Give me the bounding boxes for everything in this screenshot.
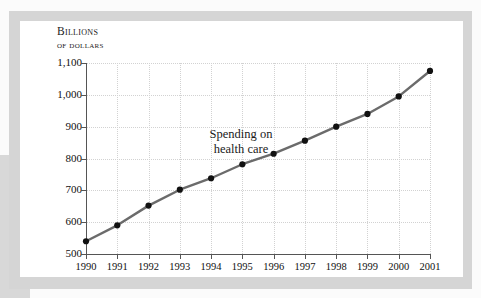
y-axis-tick-labels: 1,1001,000900800700600500 xyxy=(40,0,82,298)
chart-annotation: Spending on health care xyxy=(186,127,296,156)
data-point-marker xyxy=(302,138,308,144)
y-axis-tick-label: 900 xyxy=(66,120,83,132)
data-point-marker xyxy=(364,111,370,117)
chart-page: Billions of dollars 1,1001,0009008007006… xyxy=(0,0,481,298)
series-markers xyxy=(83,68,433,245)
data-point-marker xyxy=(333,124,339,130)
y-axis-tick-label: 800 xyxy=(66,152,83,164)
data-point-marker xyxy=(177,187,183,193)
data-point-marker xyxy=(208,175,214,181)
data-point-marker xyxy=(396,93,402,99)
annotation-line-1: Spending on xyxy=(186,127,296,142)
data-point-marker xyxy=(239,161,245,167)
series-plot xyxy=(86,63,446,263)
y-axis-tick-label: 500 xyxy=(66,247,83,259)
y-axis-tick-label: 700 xyxy=(66,183,83,195)
series-line-health-care xyxy=(86,71,430,241)
y-axis-tick-label: 1,100 xyxy=(57,56,82,68)
data-point-marker xyxy=(145,203,151,209)
y-axis-tick-label: 600 xyxy=(66,215,83,227)
data-point-marker xyxy=(114,222,120,228)
annotation-line-2: health care xyxy=(186,142,296,157)
data-point-marker xyxy=(427,68,433,74)
y-axis-tick-label: 1,000 xyxy=(57,88,82,100)
data-point-marker xyxy=(83,238,89,244)
